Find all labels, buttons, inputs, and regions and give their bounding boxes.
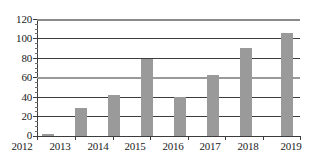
x-tick-label-2012: 2012 xyxy=(11,140,32,152)
x-axis-tick-2012 xyxy=(37,136,38,140)
y-tick-label-80: 80 xyxy=(21,53,32,64)
x-tick-label-2013: 2013 xyxy=(49,140,70,152)
x-tick-label-2015: 2015 xyxy=(124,140,145,152)
x-tick-label-2018: 2018 xyxy=(237,140,258,152)
x-axis-tick-2015 xyxy=(150,136,151,140)
bar-2018 xyxy=(240,48,252,136)
gridline-80 xyxy=(37,58,300,59)
x-tick-label-2014: 2014 xyxy=(87,140,108,152)
gridline-120 xyxy=(37,19,300,21)
bar-2017 xyxy=(207,75,219,136)
y-tick-label-20: 20 xyxy=(21,111,32,122)
y-tick-label-60: 60 xyxy=(21,72,32,83)
gridline-40 xyxy=(37,97,300,98)
bar-2016 xyxy=(174,97,186,136)
gridline-60 xyxy=(37,77,300,79)
x-tick-label-2019: 2019 xyxy=(280,140,301,152)
bar-2019 xyxy=(281,33,293,136)
y-tick-label-120: 120 xyxy=(16,14,32,25)
y-tick-label-100: 100 xyxy=(16,33,32,44)
gridline-100 xyxy=(37,38,300,39)
x-axis-tick-2013 xyxy=(75,136,76,140)
x-tick-label-2017: 2017 xyxy=(199,140,220,152)
x-axis-tick-2018 xyxy=(263,136,264,140)
bar-chart: 120 100 80 60 40 20 0 xyxy=(0,0,318,167)
plot-area xyxy=(37,19,300,136)
bar-2015 xyxy=(141,59,153,136)
x-axis-tick-2017 xyxy=(225,136,226,140)
x-tick-label-2016: 2016 xyxy=(162,140,183,152)
bar-2012 xyxy=(42,134,54,136)
bar-2013 xyxy=(75,108,87,136)
x-axis-tick-2014 xyxy=(113,136,114,140)
gridline-0 xyxy=(37,136,300,137)
y-tick-label-40: 40 xyxy=(21,92,32,103)
bar-2014 xyxy=(108,95,120,136)
x-axis-tick-2016 xyxy=(188,136,189,140)
